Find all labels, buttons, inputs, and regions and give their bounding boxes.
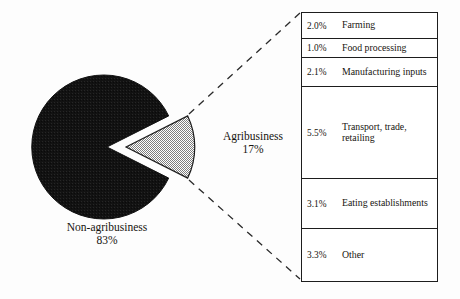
table-cell-percent: 1.0% — [307, 43, 337, 53]
table-cell-percent: 3.3% — [307, 250, 337, 260]
table-row: 1.0% Food processing — [302, 39, 437, 58]
table-row: 2.1% Manufacturing inputs — [302, 58, 437, 87]
table-cell-percent: 2.0% — [307, 21, 337, 31]
pie-label-agribusiness: Agribusiness 17% — [205, 130, 301, 156]
pie-label-agribusiness-percent: 17% — [205, 143, 301, 156]
table-cell-category: Food processing — [337, 43, 434, 54]
pie-label-nonagribusiness-name: Non-agribusiness — [22, 221, 192, 234]
leader-line-top — [189, 13, 300, 114]
agribusiness-breakdown-table: 2.0% Farming 1.0% Food processing 2.1% M… — [301, 12, 438, 282]
table-row: 3.1% Eating establishments — [302, 179, 437, 229]
table-cell-category: Eating establishments — [337, 198, 434, 209]
table-cell-category: Other — [337, 250, 434, 261]
table-row: 2.0% Farming — [302, 13, 437, 39]
leader-line-bottom — [189, 180, 300, 279]
table-cell-percent: 2.1% — [307, 67, 337, 77]
table-cell-category: Farming — [337, 20, 434, 31]
table-cell-category: Manufacturing inputs — [337, 67, 434, 78]
table-cell-percent: 5.5% — [307, 128, 337, 138]
pie-label-nonagribusiness-percent: 83% — [22, 234, 192, 247]
table-cell-category: Transport, trade, retailing — [337, 122, 434, 144]
table-row: 3.3% Other — [302, 229, 437, 281]
agribusiness-pie-figure: Non-agribusiness 83% Agribusiness 17% 2.… — [0, 0, 460, 299]
pie-label-nonagribusiness: Non-agribusiness 83% — [22, 221, 192, 247]
pie-label-agribusiness-name: Agribusiness — [205, 130, 301, 143]
table-cell-percent: 3.1% — [307, 199, 337, 209]
table-row: 5.5% Transport, trade, retailing — [302, 87, 437, 179]
